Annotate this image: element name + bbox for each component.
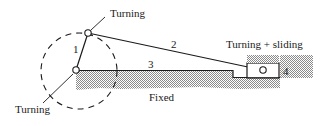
label-fixed: Fixed [149, 92, 174, 103]
pivot-slider [260, 67, 266, 73]
label-turning-bottom: Turning [15, 104, 50, 115]
label-link-2: 2 [171, 39, 177, 50]
leader-top [91, 17, 105, 30]
slider-guide-top [247, 55, 279, 63]
label-turning-top: Turning [110, 8, 145, 19]
label-turning-sliding: Turning + sliding [226, 39, 303, 50]
pivot-bottom [73, 67, 79, 73]
slider-guide-bottom [247, 78, 279, 88]
label-link-1: 1 [73, 44, 79, 55]
label-link-4: 4 [283, 66, 289, 77]
label-link-3: 3 [148, 59, 154, 70]
pivot-top [85, 30, 91, 36]
leader-bottom [43, 74, 73, 103]
